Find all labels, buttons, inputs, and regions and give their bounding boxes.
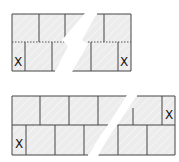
- x-mark-top-right: X: [120, 55, 128, 69]
- x-mark-top-left: X: [14, 55, 22, 69]
- bottom-wall-diagram: X X: [12, 95, 175, 156]
- x-mark-bottom-left: X: [15, 137, 23, 151]
- top-wall-diagram: X X: [12, 13, 131, 72]
- x-mark-bottom-right: X: [165, 108, 173, 122]
- brick-diagrams: X X X X: [0, 0, 179, 162]
